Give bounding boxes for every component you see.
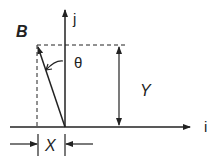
y-dimension-label: Y bbox=[140, 82, 152, 99]
vector-b-label: B bbox=[16, 23, 28, 40]
vector-b-arrow bbox=[38, 47, 65, 127]
theta-arc bbox=[46, 61, 63, 70]
x-dimension-label: X bbox=[44, 137, 57, 154]
j-axis-label: j bbox=[72, 10, 76, 27]
vector-diagram: B j θ Y X i bbox=[0, 0, 218, 162]
i-axis-label: i bbox=[204, 118, 207, 135]
theta-label: θ bbox=[74, 54, 82, 71]
